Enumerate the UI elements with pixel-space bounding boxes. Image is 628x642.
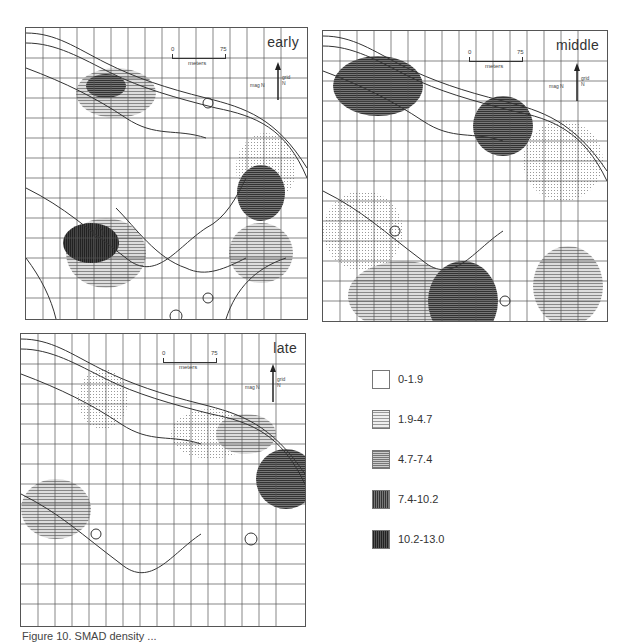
legend-item: 10.2-13.0 (372, 530, 532, 550)
legend-item: 1.9-4.7 (372, 410, 532, 430)
grid-map-early (26, 28, 307, 319)
legend-item: 7.4-10.2 (372, 490, 532, 510)
panel-label-middle: middle (556, 37, 599, 53)
map-panel-late: late 0 75 meters grid N mag N (20, 333, 306, 627)
panel-label-early: early (267, 34, 299, 50)
map-panel-early: early 0 75 meters grid N mag N (25, 27, 308, 320)
legend-item: 4.7-7.4 (372, 450, 532, 470)
figure-caption: Figure 10. SMAD density ... (22, 630, 157, 642)
legend-swatch (372, 410, 390, 429)
map-panel-middle: middle 0 75 meters grid N mag N (322, 30, 608, 322)
legend-swatch (372, 370, 390, 389)
legend-swatch (372, 530, 390, 549)
legend-swatch (372, 490, 390, 509)
legend-swatch (372, 450, 390, 469)
panel-label-late: late (273, 340, 297, 356)
legend-item: 0-1.9 (372, 370, 532, 390)
